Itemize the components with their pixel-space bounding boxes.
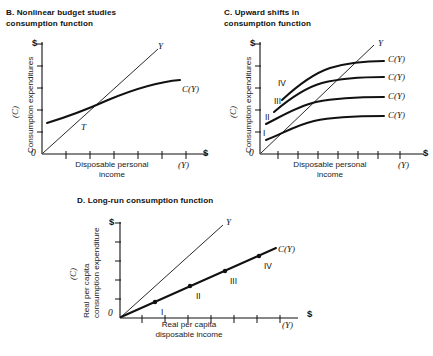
panel-d-svg [118,220,333,330]
panel-b-x-axis-title: Disposable personal income [56,160,168,180]
panel-b-curve-cy [47,80,180,123]
panel-c-title: C. Upward shifts in consumption function [216,0,433,29]
panel-c-curve-y-label: Y [378,38,383,48]
panel-d: D. Long-run consumption function (C) Rea… [60,190,360,356]
panel-d-y-top-symbol: $ [109,217,114,227]
panel-b-x-y-symbol: (Y) [178,160,189,170]
panel-d-curve-cy [121,248,276,317]
panel-b-point-t-label: T [81,122,86,132]
panel-b-curve-y [43,49,158,153]
panel-d-x-end-symbol: $ [307,309,312,319]
panel-d-label-iii: III [230,276,237,286]
panel-c-curve-c3-label: C(Y) [388,72,405,82]
panel-d-point-iii [223,269,227,273]
panel-d-curve-cy-label: C(Y) [278,244,295,254]
panel-d-plot [118,220,333,330]
panel-c-y-top-symbol: $ [250,38,255,48]
panel-b-y-top-symbol: $ [32,38,37,48]
panel-c-curve-c1-label: C(Y) [388,110,405,120]
panel-b: B. Nonlinear budget studies consumption … [0,0,215,185]
panel-c-x-ticks [278,151,400,159]
panel-d-label-ii: II [196,291,201,301]
panel-d-y-axis-title: Real per capita consumption expenditure [82,228,103,318]
panel-c-plot [258,40,433,165]
panel-c-roman-i: I [263,128,265,138]
panel-c-origin-label: 0 [249,148,254,158]
panel-c-curve-c3 [274,77,384,112]
panel-b-x-ticks [66,151,186,159]
panel-c-svg [258,40,433,165]
panel-c-x-axis-title: Disposable personal income [272,160,388,180]
panel-b-curve-y-label: Y [158,41,163,51]
panel-d-point-iv [257,254,261,258]
panel-b-plot [40,40,215,165]
panel-c-y-axis-title: Consumption expenditures [244,57,254,153]
panel-d-curve-y [121,225,223,317]
panel-d-label-i: I [161,307,163,317]
panel-c-x-y-symbol: (Y) [398,160,409,170]
panel-d-curve-y-label: Y [226,217,231,227]
panel-c-curve-c2-label: C(Y) [388,91,405,101]
panel-d-point-i [153,300,157,304]
panel-c-x-end-symbol: $ [423,148,428,158]
panel-c: C. Upward shifts in consumption function… [216,0,433,185]
panel-d-point-ii [188,284,192,288]
panel-c-roman-iii: III [274,96,281,106]
panel-b-svg [40,40,215,165]
panel-d-label-iv: IV [264,261,272,271]
panel-c-curve-c4-label: C(Y) [388,54,405,64]
panel-c-roman-iv: IV [278,78,286,88]
panel-d-title: D. Long-run consumption function [60,190,327,207]
panel-b-x-end-symbol: $ [203,148,208,158]
panel-b-y-axis-title: Consumption expenditures [26,57,36,153]
panel-b-y-c-label: (C) [10,106,20,118]
panel-c-roman-ii: II [265,112,270,122]
panel-b-origin-label: 0 [31,148,36,158]
panel-c-curve-c1 [266,116,384,140]
panel-c-y-c-label: (C) [228,106,238,118]
panel-b-curve-cy-label: C(Y) [182,84,199,94]
panel-d-x-y-symbol: (Y) [282,320,293,330]
panel-d-y-c-label: (C) [68,268,78,280]
panel-d-origin-label: 0 [108,308,113,318]
panel-d-x-axis-title: Real per capita disposable income [130,320,248,340]
panel-b-title: B. Nonlinear budget studies consumption … [0,0,211,29]
